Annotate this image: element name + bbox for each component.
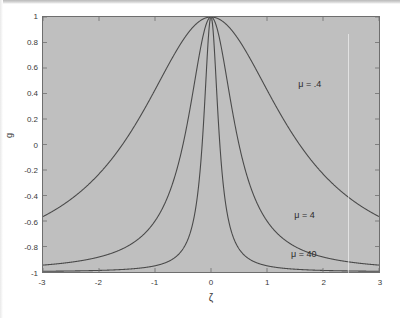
scan-artifact-band xyxy=(0,0,400,4)
x-tick-label: 0 xyxy=(196,278,226,287)
y-tick-label: -1 xyxy=(4,269,38,278)
figure-container: 10.80.60.40.20-0.2-0.4-0.6-0.8-1 -3-2-10… xyxy=(0,0,400,318)
y-tick-label: 0.2 xyxy=(4,114,38,123)
scan-artifact-vertical-line xyxy=(348,34,349,289)
y-tick-label: 0.4 xyxy=(4,89,38,98)
shaded-region xyxy=(43,17,379,272)
y-tick-label: -0.4 xyxy=(4,191,38,200)
x-tick-label: 3 xyxy=(365,278,395,287)
y-tick-label: -0.2 xyxy=(4,166,38,175)
y-tick-label: 0 xyxy=(4,140,38,149)
x-tick-label: 2 xyxy=(309,278,339,287)
x-axis-label: ζ xyxy=(42,292,380,303)
x-tick-label: -2 xyxy=(83,278,113,287)
curve-annotation-2: μ = 40 xyxy=(291,249,316,259)
x-tick-label: -3 xyxy=(27,278,57,287)
y-tick-label: -0.6 xyxy=(4,217,38,226)
y-tick-label: 0.6 xyxy=(4,63,38,72)
y-tick-label: -0.8 xyxy=(4,243,38,252)
y-axis-tick-labels: 10.80.60.40.20-0.2-0.4-0.6-0.8-1 xyxy=(2,16,38,273)
x-axis-tick-labels: -3-2-10123 xyxy=(42,278,380,292)
curve-annotation-0: μ = .4 xyxy=(298,79,321,89)
x-tick-label: -1 xyxy=(140,278,170,287)
y-tick-label: 0.8 xyxy=(4,37,38,46)
plot-svg xyxy=(43,17,379,272)
curve-annotation-1: μ = 4 xyxy=(294,210,314,220)
plot-area xyxy=(42,16,380,273)
y-axis-label: g xyxy=(4,133,14,138)
x-tick-label: 1 xyxy=(252,278,282,287)
y-tick-label: 1 xyxy=(4,12,38,21)
